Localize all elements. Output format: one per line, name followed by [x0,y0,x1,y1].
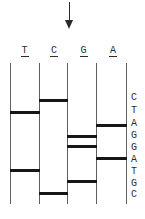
gel-lane-line [126,63,127,204]
gel-band-C [39,192,69,195]
dna-sequencing-gel-figure: TCGA CTAGGATGC [0,0,145,219]
gel-band-A [96,124,127,127]
gel-band-G [67,145,97,148]
gel-band-A [96,157,127,160]
sequence-letter: C [131,92,143,103]
gel-lane-line [39,63,40,204]
gel-band-C [39,99,69,102]
gel-band-G [67,180,97,183]
sequence-letter: G [131,178,143,189]
sequence-letter: T [131,105,143,116]
sequence-letter: A [131,118,143,129]
sequence-letter: T [131,166,143,177]
gel-band-G [67,135,97,138]
sequence-letter: G [131,130,143,141]
down-arrow-shaft [69,2,70,21]
sequence-letter: A [131,154,143,165]
sequence-letter: G [131,142,143,153]
down-arrow-head [65,20,73,29]
gel-band-T [10,169,40,172]
sequence-letter: C [131,189,143,200]
gel-lane-line [10,63,11,204]
lane-label-T: T [20,45,28,57]
lane-label-A: A [109,45,117,57]
lane-label-C: C [50,45,58,57]
gel-band-T [10,111,40,114]
lane-label-G: G [79,45,87,57]
